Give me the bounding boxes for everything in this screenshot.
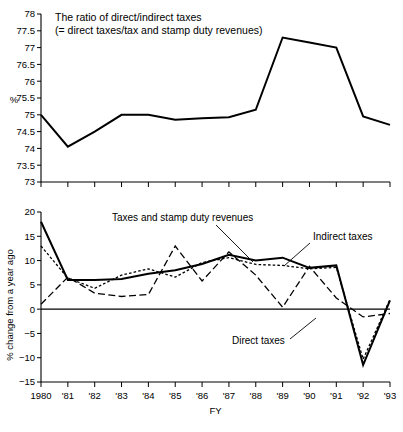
top-y-tick-label: 73.5 [17,160,36,171]
top-chart-subtitle: (= direct taxes/tax and stamp duty reven… [55,24,262,36]
bottom-x-tick-label: '86 [196,390,208,401]
bottom-x-tick-label: '89 [276,390,288,401]
bottom-x-tick-marks [41,382,390,387]
top-y-tick-label: 76.5 [17,59,36,70]
bottom-x-tick-label: '93 [384,390,396,401]
bottom-y-tick-label: 15 [24,231,35,242]
bottom-x-tick-label: '92 [357,390,369,401]
bottom-chart-panel: 20151050−5−10−15 % change from a year ag… [0,200,403,432]
bottom-x-tick-label: '84 [142,390,154,401]
top-y-tick-label: 78 [24,8,35,19]
bottom-y-tick-label: −15 [19,376,35,387]
bottom-y-tick-labels: 20151050−5−10−15 [19,206,35,387]
bottom-y-tick-label: −10 [19,352,35,363]
bottom-x-tick-label: '85 [169,390,181,401]
top-chart-title: The ratio of direct/indirect taxes [55,11,201,23]
series-line-indirect-taxes [41,246,390,359]
top-y-tick-label: 74.5 [17,126,36,137]
series-line-direct-taxes [41,246,390,317]
bottom-x-tick-label: 1980 [30,390,51,401]
top-y-tick-label: 77.5 [17,25,36,36]
annotation-taxes-stamp-duty: Taxes and stamp duty revenues [112,212,253,223]
bottom-y-tick-label: 20 [24,206,35,217]
bottom-x-tick-label: '88 [250,390,262,401]
bottom-x-tick-labels: 1980'81'82'83'84'85'86'87'88'89'90'91'92… [30,390,396,401]
annotation-direct-taxes: Direct taxes [232,335,285,346]
bottom-y-tick-label: 10 [24,255,35,266]
bottom-x-tick-label: '87 [223,390,235,401]
top-y-tick-label: 75.5 [17,92,36,103]
bottom-chart-svg: 20151050−5−10−15 % change from a year ag… [0,200,403,432]
series-line-ratio [41,38,390,147]
leader-line-direct-taxes [290,318,316,339]
top-chart-panel: 7877.57776.57675.57574.57473.573 % The r… [0,0,403,200]
top-y-axis-title: % [10,94,19,105]
bottom-y-tick-marks [37,212,41,382]
bottom-y-axis-title: % change from a year ago [4,249,15,360]
top-y-tick-label: 76 [24,76,35,87]
bottom-y-tick-label: 5 [30,279,35,290]
top-y-tick-label: 77 [24,42,35,53]
top-axis-frame [41,14,390,182]
figure-container: 7877.57776.57675.57574.57473.573 % The r… [0,0,403,432]
top-chart-svg: 7877.57776.57675.57574.57473.573 % The r… [0,0,403,200]
series-line-taxes-stamp-duty [41,222,390,365]
top-y-tick-label: 75 [24,109,35,120]
bottom-y-tick-label: −5 [24,328,35,339]
top-y-tick-label: 73 [24,176,35,187]
bottom-x-tick-label: '81 [62,390,74,401]
top-y-tick-label: 74 [24,143,35,154]
annotation-indirect-taxes: Indirect taxes [313,231,372,242]
bottom-x-tick-label: '82 [88,390,100,401]
top-y-tick-marks [37,14,390,187]
bottom-x-tick-label: '91 [330,390,342,401]
bottom-x-tick-label: '83 [115,390,127,401]
bottom-y-tick-label: 0 [30,304,35,315]
top-y-tick-labels: 7877.57776.57675.57574.57473.573 [17,8,36,187]
bottom-x-axis-title: FY [209,405,222,416]
bottom-x-tick-label: '90 [303,390,315,401]
